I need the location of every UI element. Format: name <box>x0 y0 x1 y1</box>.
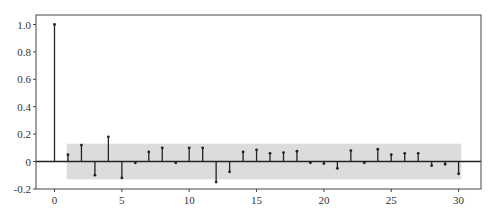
stem-marker <box>269 152 272 155</box>
stem-marker <box>336 167 339 170</box>
stem-marker <box>255 148 258 151</box>
x-axis-ticks: 051015202530 <box>52 189 465 206</box>
y-tick-label: 0.2 <box>17 128 31 140</box>
stem-marker <box>430 164 433 167</box>
stem-marker <box>349 149 352 152</box>
stem-marker <box>120 177 123 180</box>
x-tick-label: 10 <box>184 194 196 206</box>
stem-marker <box>107 135 110 138</box>
acf-stem-lag-9 <box>174 161 177 164</box>
stem-marker <box>174 161 177 164</box>
stem-marker <box>296 150 299 153</box>
stem-marker <box>215 181 218 184</box>
stem-marker <box>363 161 366 164</box>
acf-chart: -0.200.20.40.60.81.0 051015202530 <box>0 0 495 215</box>
stem-marker <box>457 172 460 175</box>
stem-marker <box>188 146 191 149</box>
y-tick-label: 0 <box>26 156 32 168</box>
x-tick-label: 20 <box>318 194 330 206</box>
y-tick-label: -0.2 <box>14 183 31 195</box>
y-axis-ticks: -0.200.20.40.60.81.0 <box>14 19 36 195</box>
stem-marker <box>323 162 326 165</box>
x-tick-label: 25 <box>386 194 398 206</box>
stem-marker <box>161 146 164 149</box>
stem-marker <box>201 146 204 149</box>
stem-marker <box>242 151 245 154</box>
y-tick-label: 1.0 <box>17 19 31 31</box>
x-tick-label: 15 <box>251 194 263 206</box>
acf-stem-lag-23 <box>363 161 366 164</box>
stem-marker <box>67 153 70 156</box>
y-tick-label: 0.6 <box>17 73 31 85</box>
acf-stem-lag-0 <box>53 23 56 161</box>
stem-marker <box>282 151 285 154</box>
stem-marker <box>309 161 312 164</box>
y-tick-label: 0.4 <box>17 101 31 113</box>
x-tick-label: 30 <box>453 194 465 206</box>
x-tick-label: 0 <box>52 194 58 206</box>
stem-marker <box>403 152 406 155</box>
y-tick-label: 0.8 <box>17 46 31 58</box>
acf-stem-lag-6 <box>134 161 137 164</box>
stem-marker <box>94 174 97 177</box>
acf-stem-lag-19 <box>309 161 312 164</box>
stem-marker <box>376 148 379 151</box>
stem-marker <box>80 144 83 147</box>
stem-marker <box>134 161 137 164</box>
stem-marker <box>228 170 231 173</box>
stem-marker <box>444 163 447 166</box>
stem-marker <box>147 151 150 154</box>
stem-marker <box>390 153 393 156</box>
stem-marker <box>53 23 56 26</box>
x-tick-label: 5 <box>119 194 125 206</box>
stem-marker <box>417 152 420 155</box>
